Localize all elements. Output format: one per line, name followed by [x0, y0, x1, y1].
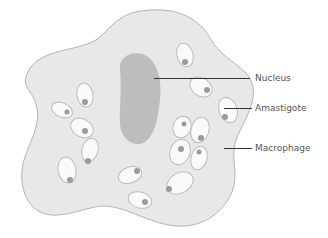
macrophage-label: Macrophage: [255, 143, 310, 154]
nucleus-leader-line: [154, 78, 250, 79]
nucleus-label: Nucleus: [255, 73, 291, 84]
diagram-svg: [0, 0, 328, 238]
macrophage-leader-line: [224, 148, 252, 149]
amastigote-leader-line: [224, 108, 252, 109]
macrophage-diagram: Nucleus Amastigote Macrophage: [0, 0, 328, 238]
amastigote-label: Amastigote: [255, 103, 306, 114]
